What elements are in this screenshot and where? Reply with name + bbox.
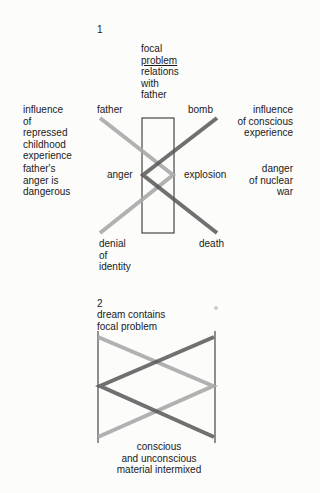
focal-subtitle: relations with father: [141, 66, 179, 101]
left-top-annotation: influence of repressed childhood experie…: [23, 104, 72, 162]
figure-2-number: 2: [97, 298, 103, 310]
right-top-annotation: influence of conscious experience: [237, 104, 293, 139]
node-death: death: [199, 238, 224, 250]
unconscious-material-line: [98, 337, 213, 437]
node-explosion: explosion: [184, 169, 226, 181]
focal-title: focal: [141, 43, 162, 55]
focal-problem-label: problem: [141, 55, 177, 67]
node-father: father: [97, 104, 123, 116]
scan-speck: [214, 306, 218, 310]
left-bottom-annotation: father's anger is dangerous: [23, 163, 70, 198]
node-anger: anger: [107, 169, 133, 181]
node-denial-of-identity: denial of identity: [99, 238, 131, 273]
figure-2-caption: conscious and unconscious material inter…: [100, 441, 218, 476]
conscious-material-line: [100, 337, 214, 437]
right-bottom-annotation: danger of nuclear war: [249, 163, 293, 198]
figure-1-number: 1: [97, 24, 103, 36]
figure-2-title: dream contains focal problem: [97, 309, 165, 332]
node-bomb: bomb: [188, 104, 213, 116]
